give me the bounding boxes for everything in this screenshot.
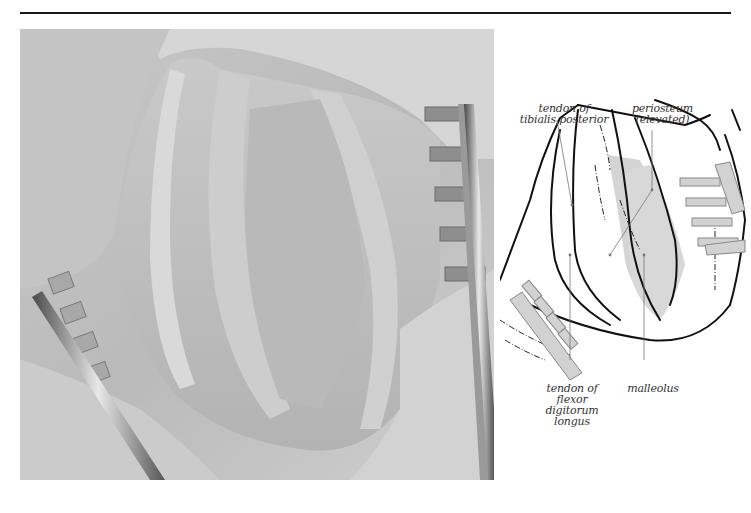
label-periosteum-elevated: periosteum (elevated) — [625, 103, 700, 125]
tendon-line-1 — [573, 110, 620, 320]
outline-left — [500, 105, 578, 280]
label-tendon-tibialis-posterior: tendon of tibialis posterior — [514, 103, 614, 125]
label-line: tibialis posterior — [514, 114, 614, 125]
texture-stroke — [505, 340, 545, 360]
label-line: malleolus — [618, 383, 688, 394]
leader-dot — [571, 204, 574, 207]
label-line: longus — [530, 416, 614, 427]
leader-dot — [651, 189, 654, 192]
edge-tick — [732, 110, 740, 130]
label-line: (elevated) — [625, 114, 700, 125]
anatomical-diagram — [500, 90, 751, 410]
leader-dot — [643, 254, 646, 257]
texture-stroke — [600, 125, 610, 170]
leader-tibialis-posterior — [557, 120, 572, 205]
label-tendon-flexor-digitorum-longus: tendon of flexor digitorum longus — [530, 383, 614, 427]
surgical-photograph — [20, 29, 494, 480]
top-rule — [20, 12, 731, 14]
right-retractor — [680, 162, 745, 255]
leader-dot — [609, 254, 612, 257]
label-line: flexor digitorum — [530, 394, 614, 416]
tendon-line-2 — [551, 130, 610, 325]
leader-dot — [569, 254, 572, 257]
diagram-drawing — [500, 90, 751, 410]
label-malleolus: malleolus — [618, 383, 688, 394]
photo-illustration — [20, 29, 494, 480]
texture-stroke — [595, 165, 605, 220]
left-retractor — [510, 280, 582, 380]
